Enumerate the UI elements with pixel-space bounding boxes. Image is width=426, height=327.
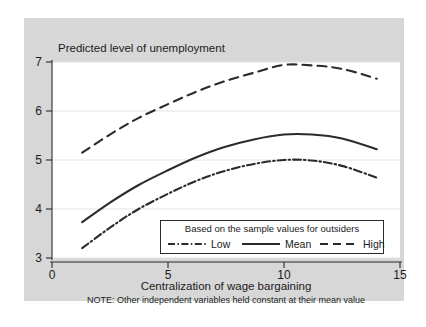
legend-swatch-mean-icon xyxy=(241,239,281,249)
legend-label-mean: Mean xyxy=(285,238,311,250)
y-tick-label-6: 6 xyxy=(24,104,42,118)
y-tick-label-5: 5 xyxy=(24,153,42,167)
legend-entry-mean: Mean xyxy=(241,237,311,251)
legend-entry-low: Low xyxy=(167,237,230,251)
y-tick-label-4: 4 xyxy=(24,202,42,216)
legend-swatch-low-icon xyxy=(167,239,207,249)
chart-figure: Predicted level of unemployment 7 6 5 4 … xyxy=(0,0,426,327)
y-tick-label-7: 7 xyxy=(24,55,42,69)
legend-label-low: Low xyxy=(211,238,230,250)
legend-label-high: High xyxy=(363,238,385,250)
legend-heading: Based on the sample values for outsiders xyxy=(161,223,383,234)
legend: Based on the sample values for outsiders… xyxy=(160,220,384,254)
legend-entry-high: High xyxy=(319,237,385,251)
chart-title: Predicted level of unemployment xyxy=(58,42,225,54)
x-axis-label: Centralization of wage bargaining xyxy=(52,280,400,292)
chart-note: NOTE: Other independent variables held c… xyxy=(52,295,400,305)
legend-swatch-high-icon xyxy=(319,239,359,249)
y-tick-label-3: 3 xyxy=(24,251,42,265)
